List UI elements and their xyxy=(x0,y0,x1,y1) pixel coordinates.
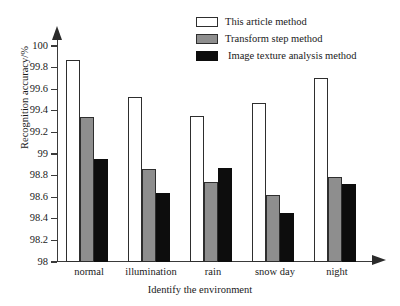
legend-item: This article method xyxy=(196,14,357,29)
y-axis-tick-label: 99.4 xyxy=(0,105,48,116)
bar-normal-series-2 xyxy=(94,159,108,262)
legend-swatch-icon xyxy=(196,17,218,27)
plot-area xyxy=(58,46,368,262)
bar-illumination-series-0 xyxy=(128,97,142,262)
y-axis-tick-label: 99.8 xyxy=(0,62,48,73)
y-axis-tick-label: 99.6 xyxy=(0,84,48,95)
legend-label: Transform step method xyxy=(225,33,323,44)
y-axis-tick xyxy=(51,218,57,219)
bar-group xyxy=(128,46,170,262)
legend-item: Transform step method xyxy=(196,31,357,46)
bar-night-series-1 xyxy=(328,177,342,262)
y-axis-arrow-icon xyxy=(52,26,62,40)
y-axis-tick xyxy=(51,240,57,241)
bar-rain-series-2 xyxy=(218,168,232,262)
y-axis-tick xyxy=(51,45,57,46)
bar-group xyxy=(252,46,294,262)
bar-night-series-2 xyxy=(342,184,356,262)
bar-group xyxy=(314,46,356,262)
y-axis-tick-label: 98.8 xyxy=(0,170,48,181)
y-axis-tick xyxy=(51,89,57,90)
y-axis-tick-label: 100 xyxy=(0,41,48,52)
bar-rain-series-1 xyxy=(204,182,218,262)
y-axis-tick xyxy=(51,67,57,68)
y-axis-tick xyxy=(51,175,57,176)
x-axis-tick-label: night xyxy=(296,266,378,277)
bar-normal-series-1 xyxy=(80,117,94,262)
bar-normal-series-0 xyxy=(66,60,80,262)
y-axis-title: Recognition accuracy/% xyxy=(19,38,30,158)
bar-illumination-series-1 xyxy=(142,169,156,262)
y-axis-tick-label: 98 xyxy=(0,257,48,268)
y-axis-tick-label: 98.4 xyxy=(0,213,48,224)
bar-illumination-series-2 xyxy=(156,193,170,262)
bar-snow-day-series-0 xyxy=(252,103,266,262)
y-axis-tick xyxy=(51,153,57,154)
y-axis-tick xyxy=(51,261,57,262)
y-axis-tick-label: 99 xyxy=(0,149,48,160)
y-axis-tick xyxy=(51,197,57,198)
x-axis-arrow-icon xyxy=(372,255,386,265)
y-axis-tick xyxy=(51,110,57,111)
bar-chart: This article methodTransform step method… xyxy=(0,0,400,306)
y-axis-tick xyxy=(51,132,57,133)
y-axis-tick-label: 98.2 xyxy=(0,235,48,246)
bar-group xyxy=(190,46,232,262)
y-axis-tick-label: 99.2 xyxy=(0,127,48,138)
y-axis-tick-label: 98.6 xyxy=(0,192,48,203)
bar-group xyxy=(66,46,108,262)
bar-snow-day-series-2 xyxy=(280,213,294,262)
bar-rain-series-0 xyxy=(190,116,204,262)
legend-swatch-icon xyxy=(196,34,218,44)
legend-label: This article method xyxy=(225,16,307,27)
bar-snow-day-series-1 xyxy=(266,195,280,262)
bar-night-series-0 xyxy=(314,78,328,262)
x-axis-title: Identify the environment xyxy=(0,284,400,295)
